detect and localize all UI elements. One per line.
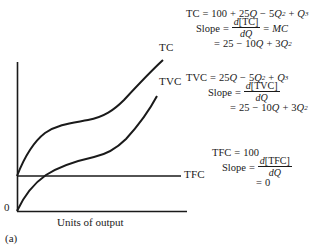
tvc-exp-b: 10 <box>261 102 272 113</box>
tc-plus-2: + <box>288 8 294 19</box>
tc-exp-plus: + <box>266 38 272 49</box>
tvc-curve <box>17 96 157 211</box>
tc-frac-denominator: dQ <box>238 28 254 39</box>
tc-slope-line: Slope = d[TC] dQ = MC <box>186 21 308 36</box>
tc-exp-varc: Q <box>281 38 289 49</box>
origin-label: 0 <box>4 201 10 213</box>
tfc-lhs: TFC <box>212 147 231 158</box>
tvc-equals: = <box>210 72 216 83</box>
x-axis-title: Units of output <box>57 216 124 228</box>
curve-label-tvc: TVC <box>159 75 182 87</box>
tvc-var-q: Q <box>229 72 237 83</box>
tfc-equals: = <box>234 147 240 158</box>
tc-derivative-fraction: d[TC] dQ <box>232 16 260 39</box>
tvc-exp-minus: − <box>252 102 258 113</box>
tvc-slope-word: Slope <box>208 87 232 98</box>
tc-exp-b: 10 <box>245 38 256 49</box>
tc-minus: − <box>260 8 266 19</box>
tc-frac-num-text: [TC] <box>239 16 258 27</box>
tc-lhs: TC <box>186 8 199 19</box>
equation-block-tvc: TVC = 25Q − 5Q2 + Q3 Slope = d[TVC] dQ =… <box>186 70 308 115</box>
tc-slope-word: Slope <box>196 23 220 34</box>
tc-equals: = <box>202 8 208 19</box>
tc-exp-varb: Q <box>256 38 264 49</box>
tvc-frac-num-text: [TVC] <box>251 80 278 91</box>
tfc-value: 100 <box>243 147 259 158</box>
tvc-slope-equals: = <box>235 87 241 98</box>
equation-block-tfc: TFC = 100 Slope = d[TFC] dQ = 0 <box>212 145 295 190</box>
figure-caption: (a) <box>5 232 17 244</box>
tvc-frac-denominator: dQ <box>254 92 270 103</box>
tc-slope-equals: = <box>223 23 229 34</box>
tvc-coef-q: 25 <box>219 72 230 83</box>
tvc-frac-numerator: d[TVC] <box>244 80 280 91</box>
tvc-lhs: TVC <box>186 72 207 83</box>
tvc-exp-equals: = <box>230 102 236 113</box>
tc-const: 100 <box>211 8 227 19</box>
tvc-exp-a: 25 <box>239 102 250 113</box>
tc-frac-numerator: d[TC] <box>232 16 260 27</box>
tc-exp-equals: = <box>214 38 220 49</box>
tfc-frac-denominator: dQ <box>267 167 283 178</box>
tvc-slope-line: Slope = d[TVC] dQ <box>186 85 308 100</box>
tfc-derivative-fraction: d[TFC] dQ <box>258 155 292 178</box>
tc-var-q2: Q <box>274 8 282 19</box>
tvc-exp-varb: Q <box>272 102 280 113</box>
tc-var-q3: Q <box>297 8 305 19</box>
curve-label-tfc: TFC <box>184 168 205 180</box>
tfc-slope-line: Slope = d[TFC] dQ <box>212 160 295 175</box>
curve-label-tc: TC <box>159 41 173 53</box>
tc-marginal-cost: MC <box>272 23 288 34</box>
tc-exp-a: 25 <box>223 38 234 49</box>
tfc-slope-word: Slope <box>222 162 246 173</box>
tvc-exp-plus: + <box>282 102 288 113</box>
tfc-frac-num-text: [TFC] <box>265 155 290 166</box>
tvc-exp-varc: Q <box>297 102 305 113</box>
cost-curves-figure: TC TVC TFC 0 Units of output (a) TC = 10… <box>0 0 325 250</box>
tvc-derivative-fraction: d[TVC] dQ <box>244 80 280 103</box>
tc-slope-equals-2: = <box>263 23 269 34</box>
tfc-exp-equals: = <box>256 177 262 188</box>
tc-exp-minus: − <box>236 38 242 49</box>
tfc-frac-numerator: d[TFC] <box>258 155 292 166</box>
tfc-exp-value: 0 <box>265 177 270 188</box>
equation-block-tc: TC = 100 + 25Q − 5Q2 + Q3 Slope = d[TC] … <box>186 6 308 51</box>
tfc-slope-equals: = <box>249 162 255 173</box>
